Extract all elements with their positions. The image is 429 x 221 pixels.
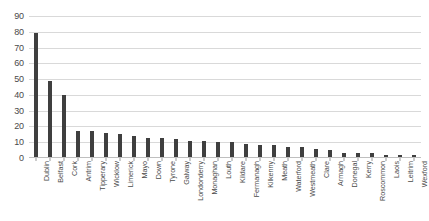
y-tick-label: 40	[0, 90, 24, 99]
x-tick-label: Mayo	[141, 161, 149, 178]
x-tick-label: Belfast	[57, 161, 65, 183]
bar	[202, 141, 206, 158]
bar	[146, 138, 150, 159]
bar	[104, 133, 108, 158]
bar	[216, 142, 220, 158]
bar	[188, 141, 192, 158]
x-tick-label: Londonderry	[197, 161, 205, 201]
bar	[48, 81, 52, 158]
y-tick-label: 80	[0, 27, 24, 36]
x-tick-label: Tipperary	[99, 161, 107, 191]
x-tick-label: Laois	[393, 161, 401, 178]
x-tick-label: Cork	[71, 161, 79, 176]
x-tick-label: Donegal	[351, 161, 359, 187]
bar	[34, 33, 38, 158]
bar	[62, 95, 66, 158]
x-tick-label: Roscommon	[379, 161, 387, 201]
x-tick-label: Dublin	[43, 161, 51, 181]
x-tick-label: Waterford	[295, 161, 303, 192]
x-tick-label: Antrim	[85, 161, 93, 181]
x-tick-label: Clare	[323, 161, 331, 178]
x-tick-label: Leitrim	[407, 161, 415, 182]
x-tick-label: Tyrone	[169, 161, 177, 183]
x-tick-label: Armagh	[337, 161, 345, 186]
x-tick-label: Westmeath	[309, 161, 317, 197]
x-axis-labels: DublinBelfastCorkAntrimTipperaryWicklowL…	[29, 161, 421, 221]
y-tick-label: 50	[0, 75, 24, 84]
x-tick-label: Wicklow	[113, 161, 121, 187]
x-tick-label: Monaghan	[211, 161, 219, 195]
bars-series	[29, 16, 421, 158]
x-tick-label: Wexford	[421, 161, 429, 187]
bar	[230, 142, 234, 158]
x-tick-label: Kerry	[365, 161, 373, 178]
x-tick-label: Meath	[281, 161, 289, 181]
bar	[160, 138, 164, 159]
y-tick-label: 60	[0, 59, 24, 68]
bar	[244, 144, 248, 158]
plot-area	[29, 16, 421, 158]
x-tick-label: Kildare	[239, 161, 247, 183]
x-tick-label: Limerick	[127, 161, 135, 187]
x-tick-label: Down	[155, 161, 163, 179]
bar	[118, 134, 122, 158]
x-tick-label: Louth	[225, 161, 233, 179]
x-tick-label: Fermanagh	[253, 161, 261, 197]
bar	[90, 131, 94, 158]
y-tick-label: 90	[0, 12, 24, 21]
bar	[132, 136, 136, 158]
y-tick-label: 0	[0, 154, 24, 163]
x-tick-label: Galway	[183, 161, 191, 185]
bar	[174, 139, 178, 158]
y-axis: 0102030405060708090	[0, 0, 24, 221]
bar	[76, 131, 80, 158]
x-tick-label: Kilkenny	[267, 161, 275, 188]
y-tick-label: 20	[0, 122, 24, 131]
y-tick-label: 30	[0, 106, 24, 115]
y-tick-label: 70	[0, 43, 24, 52]
y-tick-label: 10	[0, 138, 24, 147]
